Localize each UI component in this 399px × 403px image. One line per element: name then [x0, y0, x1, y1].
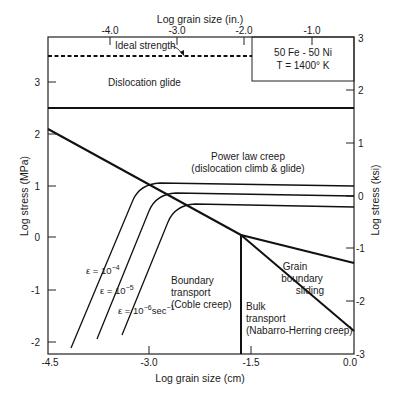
bulk-transport-label: transport — [246, 313, 286, 324]
left-tick-label: 1 — [34, 181, 40, 192]
boundary-transport-label: transport — [171, 287, 211, 298]
right-axis-label: Log stress (ksi) — [369, 164, 381, 235]
bottom-axis-label: Log grain size (cm) — [155, 372, 244, 384]
right-tick-label: 0 — [358, 191, 364, 202]
deformation-map-chart: Log grain size (in.) -4.0 -3.0 -2.0 -1.0… — [0, 0, 399, 403]
dislocation-glide-label: Dislocation glide — [108, 77, 181, 88]
power-law-sublabel: (dislocation climb & glide) — [191, 163, 304, 174]
bottom-tick-label: -1.5 — [242, 357, 260, 368]
right-tick-label: 1 — [358, 138, 364, 149]
left-tick-label: 2 — [34, 129, 40, 140]
inset-alloy: 50 Fe - 50 Ni — [274, 47, 332, 58]
inset-box — [252, 37, 354, 81]
top-tick-label: -1.0 — [303, 25, 321, 36]
left-ticks — [48, 82, 56, 342]
bulk-transport-label: Bulk — [246, 301, 266, 312]
gbs-label: sliding — [296, 285, 324, 296]
boundary-transport-label: Boundary — [171, 275, 214, 286]
left-tick-label: -2 — [31, 337, 40, 348]
right-tick-label: -2 — [356, 296, 365, 307]
bottom-tick-label: -3.0 — [140, 357, 158, 368]
strain-rate-curve-1e-5 — [97, 193, 354, 339]
bulk-transport-label: (Nabarro-Herring creep) — [246, 325, 353, 336]
left-tick-label: 3 — [34, 77, 40, 88]
inset-temperature: T = 1400° K — [276, 60, 329, 71]
boundary-transport-label: (Coble creep) — [171, 299, 232, 310]
left-tick-label: 0 — [34, 232, 40, 243]
bottom-tick-label: -4.5 — [41, 357, 59, 368]
gbs-label: Grain — [283, 261, 307, 272]
strain-rate-label-1: ε = 10−4 — [86, 264, 120, 276]
right-tick-label: -3 — [356, 349, 365, 360]
powerlaw-diffusion-line — [48, 129, 241, 235]
power-law-label: Power law creep — [211, 151, 285, 162]
left-tick-label: -1 — [31, 285, 40, 296]
top-axis-label: Log grain size (in.) — [157, 13, 243, 25]
strain-rate-label-3: ε = 10−6sec−1 — [118, 304, 175, 316]
bottom-ticks — [149, 346, 251, 354]
right-tick-label: -1 — [356, 243, 365, 254]
strain-rate-label-2: ε = 10−5 — [100, 284, 134, 296]
top-tick-label: -4.0 — [101, 25, 119, 36]
right-tick-label: 2 — [358, 85, 364, 96]
top-tick-label: -3.0 — [168, 25, 186, 36]
ideal-strength-label: Ideal strength — [115, 40, 176, 51]
left-axis-label: Log stress (MPa) — [18, 156, 30, 236]
right-tick-label: 3 — [358, 33, 364, 44]
top-tick-label: -2.0 — [235, 25, 253, 36]
gbs-label: boundary — [281, 273, 323, 284]
